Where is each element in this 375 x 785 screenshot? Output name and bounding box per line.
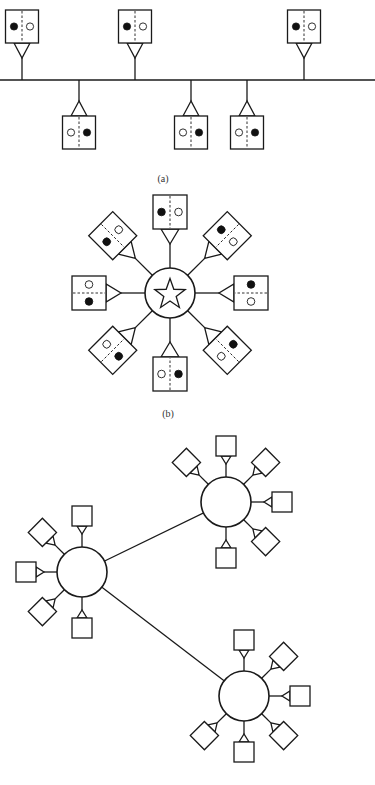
open-dot-icon (85, 281, 93, 289)
trunk-link (82, 572, 244, 696)
filled-dot-icon (195, 129, 202, 136)
filled-dot-icon (175, 370, 183, 378)
station-node (72, 506, 92, 547)
filled-dot-icon (85, 298, 93, 306)
bus-node-top (288, 10, 321, 80)
caption-b: (b) (162, 408, 174, 419)
transceiver-icon (77, 610, 87, 618)
spoke-cable (55, 590, 64, 599)
transceiver-icon (264, 497, 272, 507)
open-dot-icon (139, 23, 146, 30)
spoke-cable (135, 258, 152, 275)
station-box (216, 436, 236, 456)
station-node (16, 562, 57, 582)
hub-bottom-right (190, 630, 310, 762)
open-dot-icon (67, 129, 74, 136)
transceiver-icon (296, 43, 312, 58)
station-node (251, 492, 292, 512)
open-dot-icon (179, 129, 186, 136)
bus-topology-diagram (0, 10, 375, 149)
filled-dot-icon (251, 129, 258, 136)
spoke-cable (244, 475, 253, 484)
star-node (153, 318, 187, 391)
caption-a: (a) (157, 173, 168, 184)
transceiver-icon (282, 691, 290, 701)
spoke-cable (244, 520, 253, 529)
station-box (234, 630, 254, 650)
transceiver-icon (239, 734, 249, 742)
transceiver-icon (161, 342, 179, 357)
transceiver-icon (14, 43, 30, 58)
star-topology-diagram (72, 195, 268, 391)
filled-dot-icon (158, 208, 166, 216)
station-node (269, 686, 310, 706)
star-node (195, 276, 268, 310)
station-box (272, 492, 292, 512)
transceiver-icon (77, 526, 87, 534)
spoke-cable (188, 258, 205, 275)
spoke-cable (135, 311, 152, 328)
interconnected-hubs-diagram (16, 436, 310, 762)
station-node (234, 630, 254, 671)
hub-circle (201, 477, 251, 527)
station-node (216, 527, 236, 568)
star-node (153, 195, 187, 268)
transceiver-icon (71, 101, 87, 116)
station-box (234, 742, 254, 762)
spoke-cable (188, 311, 205, 328)
spoke-cable (217, 714, 226, 723)
bus-node-bottom (231, 80, 264, 149)
bus-node-bottom (175, 80, 208, 149)
filled-dot-icon (247, 281, 255, 289)
station-box (16, 562, 36, 582)
transceiver-icon (221, 456, 231, 464)
transceiver-icon (239, 650, 249, 658)
hub-circle (219, 671, 269, 721)
spoke-cable (262, 669, 271, 678)
transceiver-icon (36, 567, 44, 577)
bus-node-bottom (63, 80, 96, 149)
transceiver-icon (127, 43, 143, 58)
transceiver-icon (219, 284, 234, 302)
transceiver-icon (106, 284, 121, 302)
station-node (72, 597, 92, 638)
open-dot-icon (247, 298, 255, 306)
station-box (72, 506, 92, 526)
open-dot-icon (308, 23, 315, 30)
transceiver-icon (183, 101, 199, 116)
station-box (72, 618, 92, 638)
transceiver-icon (239, 101, 255, 116)
hub-top-right (172, 436, 292, 568)
station-node (234, 721, 254, 762)
filled-dot-icon (123, 23, 130, 30)
bus-node-top (6, 10, 39, 80)
spoke-cable (55, 545, 64, 554)
open-dot-icon (235, 129, 242, 136)
filled-dot-icon (292, 23, 299, 30)
hub-circle (57, 547, 107, 597)
station-box (216, 548, 236, 568)
star-node (72, 276, 145, 310)
hub-left (16, 506, 107, 638)
filled-dot-icon (10, 23, 17, 30)
spoke-cable (199, 475, 208, 484)
open-dot-icon (175, 208, 183, 216)
bus-node-top (119, 10, 152, 80)
station-box (290, 686, 310, 706)
transceiver-icon (221, 540, 231, 548)
filled-dot-icon (83, 129, 90, 136)
station-node (216, 436, 236, 477)
network-topology-figure (0, 0, 375, 785)
open-dot-icon (158, 370, 166, 378)
transceiver-icon (161, 229, 179, 244)
spoke-cable (262, 714, 271, 723)
open-dot-icon (26, 23, 33, 30)
